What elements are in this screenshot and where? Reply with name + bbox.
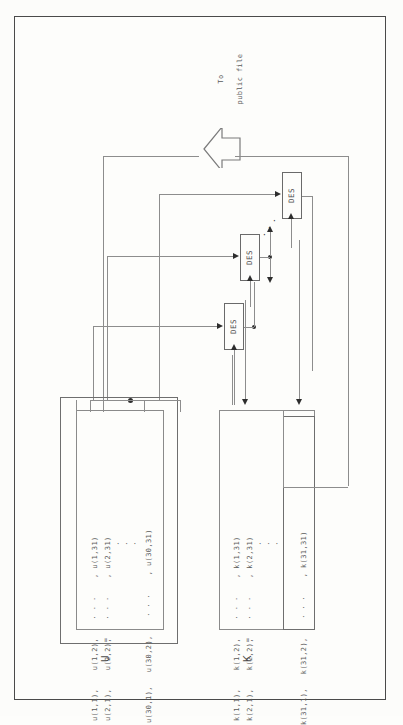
matrix-u-tap-2 [103,400,104,412]
matrix-u-row-ellipsis: · · · [116,540,137,548]
matrix-u-row-2-c4: , u(2,31) [104,536,112,578]
des3-key-arrowhead [288,213,294,219]
matrix-k-name: K [244,652,251,665]
return-bus-lower [93,400,180,401]
output-label-line1: To [217,74,225,83]
output-label: To public file [205,57,275,97]
des2-input-arrowhead [233,253,239,259]
output-bus-right-drop [348,156,349,486]
des2-key-arrowhead [247,275,253,281]
matrix-k-row-1-c4: , k(1,31) [233,536,241,578]
matrix-u-row-last: u(30,1), u(30,2), · · · , u(30,31) [140,412,154,628]
matrix-k-row-ellipsis: · · · [258,540,279,548]
matrix-u-row-1: u(1,1), u(1,2), · · · , u(1,31) [86,412,100,628]
des2-input-line [107,256,233,257]
des2-junction-up-arrowhead [267,226,273,232]
matrix-k-return-right [283,487,348,488]
matrix-k-write-arrow-3 [296,399,302,405]
matrix-k-equals: = [246,636,251,644]
matrix-u-row-last-c4: , u(30,31) [145,529,153,575]
output-bus-left-drop [103,156,104,400]
output-label-line2: public file [236,54,244,105]
des3-output-stub [302,196,313,197]
matrix-k-row-1-c3: · · · [233,596,241,619]
matrix-u-row-last-c1: u(30,1), [145,686,153,723]
matrix-u-equals: = [104,636,109,644]
matrix-k-row-last-c4: , k(31,31) [300,531,308,577]
matrix-u-row-1-c4: , u(1,31) [91,536,99,578]
des-box-2-label: DES [245,250,254,265]
des2-input-drop [107,256,108,400]
matrix-k-return-top [219,410,289,411]
matrix-k-row-2-c1: k(2,1), [246,689,254,721]
des2-key-line [250,281,251,307]
matrix-u-row-last-c3: · · · [145,594,153,617]
matrix-u-tap-1 [90,400,91,412]
matrix-u-row-last-c2: u(30,2), [145,635,153,672]
matrix-k-row-last-c3: · · · [300,596,308,619]
des-box-1-label: DES [229,319,238,334]
output-bus-left [103,156,199,157]
des3-input-drop [159,194,160,400]
des1-input-drop [93,326,94,400]
des1-input-line [93,326,217,327]
des2-output-stub [260,257,270,258]
des2-junction-down-line [270,258,271,278]
des1-key-arrowhead [231,344,237,350]
matrix-k-row-last: k(31,1), k(31,2), · · · , k(31,31) [295,412,309,628]
matrix-u-row-2: u(2,1), u(2,2), · · · , u(2,31) [99,412,113,628]
des-box-1[interactable]: DES [224,303,244,350]
des-ellipsis-dot-3: · [262,232,267,240]
des2-junction-up-line [270,232,271,256]
matrix-k-write-line-1 [232,355,233,405]
matrix-k-row-1-c1: k(1,1), [233,689,241,721]
matrix-k-row-2: k(2,1), k(2,2), · · · , k(2,31) [241,412,255,628]
des-box-3[interactable]: DES [282,172,302,219]
matrix-u-tap-bus-start [76,400,77,412]
matrix-u-tap-bus-end [180,400,181,412]
des1-key-line [234,350,235,405]
des3-key-line [291,219,292,248]
output-bus-right [235,156,348,157]
des-box-2[interactable]: DES [240,234,260,281]
block-arrow-up-icon [197,128,247,168]
matrix-u-name: U [102,652,109,665]
matrix-k-row-1-c2: k(1,2), [233,638,241,670]
matrix-u-row-1-c3: · · · [91,596,99,619]
matrix-k-return-vert [283,410,284,487]
matrix-k-write-line-2 [245,300,246,400]
des-ellipsis-dot-1: · [272,218,277,226]
matrix-k-row-2-c4: , k(2,31) [246,536,254,578]
des1-input-arrowhead [217,323,223,329]
matrix-u-tap-3 [144,400,145,412]
matrix-k-write-line-3 [299,240,300,400]
matrix-u-row-1-c1: u(1,1), [91,689,99,721]
des-box-3-label: DES [287,188,296,203]
matrix-u-row-2-c1: u(2,1), [104,689,112,721]
matrix-u-row-2-c3: · · · [104,596,112,619]
des3-input-line [159,194,275,195]
des1-output-up [254,282,255,327]
des3-input-arrowhead [275,191,281,197]
matrix-k-row-last-c1: k(31,1), [300,688,308,725]
des3-output-line [312,196,313,371]
matrix-k-row-2-c3: · · · [246,596,254,619]
matrix-k-row-last-c2: k(31,2), [300,637,308,674]
des2-junction-down-arrowhead [267,277,273,283]
matrix-k-row-1: k(1,1), k(1,2), · · · , k(1,31) [228,412,242,628]
matrix-u-row-1-c2: u(1,2), [91,638,99,670]
matrix-k-write-arrow-2 [242,399,248,405]
